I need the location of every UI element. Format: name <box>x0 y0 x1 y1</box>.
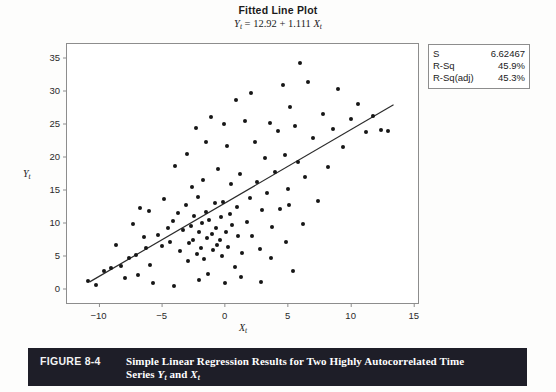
scatter-point <box>265 191 269 195</box>
scatter-point <box>336 87 340 91</box>
scatter-point <box>216 167 220 171</box>
scatter-point <box>356 102 360 106</box>
scatter-point <box>214 226 218 230</box>
scatter-point <box>260 208 264 212</box>
scatter-point <box>102 269 106 273</box>
scatter-point <box>172 284 176 288</box>
equation-response-symbol: Yt <box>234 18 242 29</box>
caption-line-2-mid: and <box>167 368 191 380</box>
scatter-point <box>286 187 290 191</box>
chart-equation-subtitle: Yt = 12.92 + 1.111 Xt <box>0 18 556 31</box>
scatter-point <box>331 127 335 131</box>
scatter-point <box>248 196 252 200</box>
scatter-point <box>151 281 155 285</box>
x-tick-label: 0 <box>222 303 227 321</box>
scatter-point <box>215 243 219 247</box>
scatter-point <box>197 230 201 234</box>
statistics-row: R-Sq45.9% <box>433 60 525 72</box>
scatter-point <box>202 257 206 261</box>
scatter-point <box>379 128 383 132</box>
scatter-point <box>156 233 160 237</box>
statistics-table: S6.62467R-Sq45.9%R-Sq(adj)45.3% <box>433 48 525 84</box>
equation-predictor-symbol: Xt <box>313 18 322 29</box>
y-tick-label: 5 <box>20 250 67 261</box>
y-tick-label: 20 <box>20 151 67 162</box>
scatter-point <box>148 263 152 267</box>
scatter-point <box>236 234 240 238</box>
scatter-point <box>200 221 204 225</box>
y-tick-label: 25 <box>20 118 67 129</box>
scatter-point <box>162 197 166 201</box>
scatter-point <box>311 136 315 140</box>
scatter-point <box>194 126 198 130</box>
scatter-point <box>349 117 353 121</box>
scatter-point <box>160 244 164 248</box>
scatter-point <box>171 219 175 223</box>
caption-line-1: Simple Linear Regression Results for Two… <box>126 355 464 367</box>
scatter-point <box>219 215 223 219</box>
statistics-box: S6.62467R-Sq45.9%R-Sq(adj)45.3% <box>428 44 530 89</box>
caption-x-symbol: Xt <box>190 368 200 380</box>
equation-body: = 12.92 + 1.111 <box>245 18 314 29</box>
statistic-value: 6.62467 <box>483 48 525 60</box>
scatter-point <box>142 235 146 239</box>
scatter-point <box>191 238 195 242</box>
scatter-point <box>301 222 305 226</box>
scatter-point <box>209 115 213 119</box>
scatter-point <box>268 121 272 125</box>
x-tick-label: −10 <box>90 303 106 321</box>
scatter-point <box>207 218 211 222</box>
scatter-point <box>195 252 199 256</box>
scatter-point <box>134 253 138 257</box>
scatter-point <box>233 265 237 269</box>
statistic-label: R-Sq <box>433 60 483 72</box>
scatter-point <box>235 205 239 209</box>
scatter-point <box>218 238 222 242</box>
scatter-points <box>67 44 420 305</box>
scatter-point <box>291 269 295 273</box>
scatter-point <box>166 226 170 230</box>
scatter-point <box>206 272 210 276</box>
scatter-point <box>213 201 217 205</box>
scatter-point <box>138 206 142 210</box>
scatter-point <box>240 251 244 255</box>
y-axis-title: Yt <box>23 168 31 181</box>
scatter-point <box>259 280 263 284</box>
scatter-point <box>199 246 203 250</box>
y-tick-label: 30 <box>20 85 67 96</box>
scatter-point <box>176 211 180 215</box>
scatter-point <box>220 254 224 258</box>
scatter-point <box>168 240 172 244</box>
scatter-point <box>127 256 131 260</box>
scatter-point <box>239 275 243 279</box>
figure-container: Fitted Line Plot Yt = 12.92 + 1.111 Xt Y… <box>0 0 556 392</box>
scatter-point <box>204 140 208 144</box>
scatter-point <box>298 61 302 65</box>
scatter-point <box>326 165 330 169</box>
scatter-point <box>270 225 274 229</box>
scatter-point <box>238 172 242 176</box>
x-tick-label: 5 <box>285 303 290 321</box>
scatter-point <box>249 91 253 95</box>
statistic-label: R-Sq(adj) <box>433 72 483 84</box>
scatter-point <box>371 114 375 118</box>
scatter-point <box>293 124 297 128</box>
scatter-point <box>190 185 194 189</box>
scatter-point <box>341 145 345 149</box>
caption-line-2-prefix: Series <box>126 368 158 380</box>
y-tick-label: 15 <box>20 184 67 195</box>
scatter-point <box>296 160 300 164</box>
scatter-point <box>288 105 292 109</box>
statistics-row: S6.62467 <box>433 48 525 60</box>
scatter-point <box>223 281 227 285</box>
scatter-point <box>109 266 113 270</box>
scatter-point <box>276 129 280 133</box>
scatter-point <box>123 276 127 280</box>
x-tick-label: −5 <box>156 303 167 321</box>
y-tick-label: 0 <box>20 283 67 294</box>
scatter-point <box>364 130 368 134</box>
scatter-point <box>253 140 257 144</box>
scatter-point <box>131 222 135 226</box>
scatter-point <box>316 199 320 203</box>
scatter-point <box>189 224 193 228</box>
